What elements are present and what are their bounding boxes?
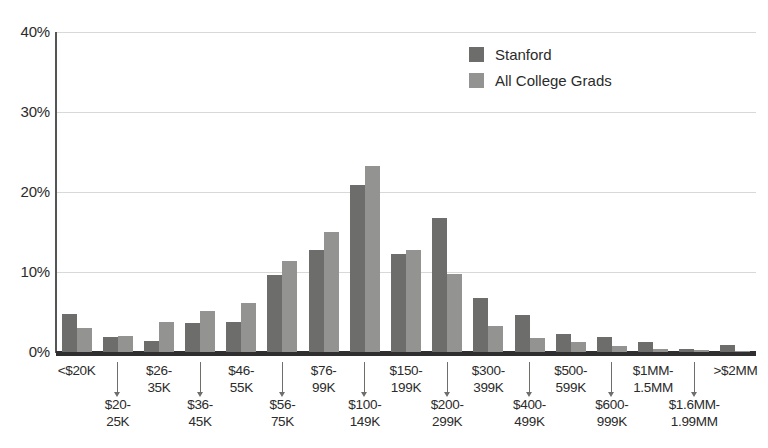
bar-group — [138, 32, 179, 352]
x-axis-tick-line: 25K — [84, 413, 152, 430]
y-axis-tick-label: 20% — [6, 183, 50, 200]
x-axis-connector-arrow-icon — [195, 362, 206, 400]
x-axis-tick-line: $1MM- — [619, 362, 687, 379]
bar-group — [427, 32, 468, 352]
bar — [159, 322, 174, 352]
chart-legend: StanfordAll College Grads — [469, 46, 612, 98]
x-axis-tick-label: $76-99K — [290, 362, 358, 396]
x-axis-tick-line: 399K — [454, 379, 522, 396]
x-axis-tick-line: 99K — [290, 379, 358, 396]
bar — [679, 349, 694, 352]
x-axis-tick-line: $26- — [125, 362, 193, 379]
bar — [267, 275, 282, 352]
x-axis-tick-line: 1.5MM — [619, 379, 687, 396]
x-axis-tick-label: $200-299K — [413, 396, 481, 430]
bar — [103, 337, 118, 352]
bar-group — [56, 32, 97, 352]
x-axis-tick-line: $76- — [290, 362, 358, 379]
y-axis-tick-label: 30% — [6, 103, 50, 120]
bar — [432, 218, 447, 352]
x-axis-tick-label: $150-199K — [372, 362, 440, 396]
x-axis-tick-line: 599K — [537, 379, 605, 396]
x-axis-tick-line: 75K — [248, 413, 316, 430]
legend-label: All College Grads — [495, 72, 612, 89]
income-distribution-chart: 0%10%20%30%40% StanfordAll College Grads… — [0, 0, 768, 448]
x-axis-tick-label: $56-75K — [248, 396, 316, 430]
legend-label: Stanford — [495, 46, 552, 63]
x-axis-connector-arrow-icon — [689, 362, 700, 400]
x-axis-connector-arrow-icon — [359, 362, 370, 400]
bar — [350, 185, 365, 352]
bar — [638, 342, 653, 352]
bar — [324, 232, 339, 352]
bar — [515, 315, 530, 352]
x-axis-tick-line: 499K — [496, 413, 564, 430]
bar-group — [221, 32, 262, 352]
bar — [282, 261, 297, 352]
bar — [556, 334, 571, 352]
x-axis-tick-line: <$20K — [43, 362, 111, 379]
bar — [185, 323, 200, 352]
bar — [488, 326, 503, 352]
bar — [694, 350, 709, 352]
x-axis-tick-line: $150- — [372, 362, 440, 379]
x-axis-tick-label: <$20K — [43, 362, 111, 379]
x-axis-tick-label: $600-999K — [578, 396, 646, 430]
bar — [226, 322, 241, 352]
x-axis-tick-label: $26-35K — [125, 362, 193, 396]
x-axis-tick-label: $300-399K — [454, 362, 522, 396]
bar — [653, 349, 668, 352]
bar — [391, 254, 406, 352]
bar — [447, 274, 462, 352]
y-axis-tick-label: 10% — [6, 263, 50, 280]
x-axis-tick-line: $300- — [454, 362, 522, 379]
bar-group — [262, 32, 303, 352]
y-axis-tick-label: 0% — [6, 343, 50, 360]
x-axis-connector-arrow-icon — [277, 362, 288, 400]
bar — [200, 311, 215, 352]
bar — [77, 328, 92, 352]
x-axis-connector-arrow-icon — [606, 362, 617, 400]
bar — [597, 337, 612, 352]
bar-group — [344, 32, 385, 352]
bar — [241, 303, 256, 352]
bar-group — [180, 32, 221, 352]
x-axis-tick-line: 299K — [413, 413, 481, 430]
x-axis-tick-label: $1.6MM-1.99MM — [660, 396, 728, 430]
bar-group — [97, 32, 138, 352]
x-axis-connector-arrow-icon — [524, 362, 535, 400]
bar — [735, 351, 750, 352]
x-axis-tick-label: $20-25K — [84, 396, 152, 430]
legend-swatch-icon — [469, 47, 484, 62]
bar-group — [385, 32, 426, 352]
legend-swatch-icon — [469, 73, 484, 88]
bar — [118, 336, 133, 352]
x-axis-connector-arrow-icon — [442, 362, 453, 400]
x-axis-tick-line: 55K — [207, 379, 275, 396]
x-axis-tick-label: $100-149K — [331, 396, 399, 430]
bar — [406, 250, 421, 352]
bar-group — [303, 32, 344, 352]
bar-group — [715, 32, 756, 352]
bar — [62, 314, 77, 352]
x-axis-tick-line: $46- — [207, 362, 275, 379]
bar — [612, 346, 627, 352]
bar — [365, 166, 380, 352]
bar-groups — [56, 32, 756, 352]
x-axis-tick-line: 35K — [125, 379, 193, 396]
x-axis-tick-line: 199K — [372, 379, 440, 396]
legend-item[interactable]: All College Grads — [469, 72, 612, 89]
x-axis-tick-label: $400-499K — [496, 396, 564, 430]
bar-group — [674, 32, 715, 352]
x-axis-tick-label: $46-55K — [207, 362, 275, 396]
x-axis-tick-line: 149K — [331, 413, 399, 430]
x-axis-tick-line: >$2MM — [701, 362, 768, 379]
y-axis-tick-label: 40% — [6, 23, 50, 40]
x-axis-connector-arrow-icon — [112, 362, 123, 400]
x-axis-tick-label: >$2MM — [701, 362, 768, 379]
x-axis-tick-line: $500- — [537, 362, 605, 379]
bar — [530, 338, 545, 352]
legend-item[interactable]: Stanford — [469, 46, 612, 63]
x-axis-tick-label: $36-45K — [166, 396, 234, 430]
bar-group — [632, 32, 673, 352]
